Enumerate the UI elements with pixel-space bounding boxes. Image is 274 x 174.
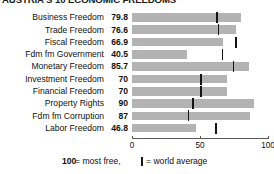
world-average-tick-icon: [141, 157, 143, 167]
world-average-marker: [200, 74, 202, 85]
world-average-marker: [192, 98, 194, 109]
x-axis-tick-label: 50: [195, 141, 204, 150]
chart-row-value: 40.5: [106, 49, 128, 59]
x-axis-tick: [200, 136, 201, 139]
world-average-marker: [218, 24, 220, 35]
chart-plot-area: Business Freedom79.8Trade Freedom76.6Fis…: [0, 12, 274, 137]
chart-row: Investment Freedom70: [0, 74, 274, 86]
chart-row: Financial Freedom70: [0, 86, 274, 98]
chart-bar: [132, 13, 241, 22]
chart-bar: [132, 25, 236, 34]
chart-row-value: 70: [106, 74, 128, 84]
chart-bar: [132, 87, 227, 96]
chart-row: Property Rights90: [0, 98, 274, 110]
chart-row-value: 85.7: [106, 61, 128, 71]
chart-row-value: 90: [106, 98, 128, 108]
world-average-marker: [215, 123, 217, 134]
legend-most-free-text: = most free,: [75, 156, 121, 166]
world-average-marker: [188, 110, 190, 121]
chart-bar: [132, 112, 250, 121]
chart-row-label: Financial Freedom: [0, 86, 104, 96]
chart-row: Business Freedom79.8: [0, 12, 274, 24]
x-axis: 050100: [0, 138, 274, 156]
chart-row-value: 87: [106, 111, 128, 121]
chart-row: Trade Freedom76.6: [0, 24, 274, 36]
world-average-marker: [233, 61, 235, 72]
chart-row: Fiscal Freedom66.9: [0, 37, 274, 49]
economic-freedoms-chart: AUSTRIA'S 10 ECONOMIC FREEDOMS Business …: [0, 0, 274, 174]
chart-title: AUSTRIA'S 10 ECONOMIC FREEDOMS: [2, 0, 272, 6]
world-average-marker: [235, 37, 237, 48]
chart-row: Labor Freedom46.8: [0, 123, 274, 135]
chart-row: Monetary Freedom85.7: [0, 61, 274, 73]
x-axis-tick-label: 100: [261, 141, 274, 150]
x-axis-tick-label: 0: [130, 141, 135, 150]
chart-row-label: Business Freedom: [0, 12, 104, 22]
world-average-marker: [216, 12, 218, 23]
chart-row-label: Investment Freedom: [0, 74, 104, 84]
chart-row-value: 79.8: [106, 12, 128, 22]
world-average-marker: [222, 49, 224, 60]
chart-row-value: 66.9: [106, 37, 128, 47]
chart-bar: [132, 62, 249, 71]
chart-row-label: Trade Freedom: [0, 25, 104, 35]
chart-row-value: 46.8: [106, 123, 128, 133]
chart-row-label: Property Rights: [0, 98, 104, 108]
chart-row-label: Fdm fm Government: [0, 49, 104, 59]
chart-row-value: 76.6: [106, 25, 128, 35]
chart-row-label: Fiscal Freedom: [0, 37, 104, 47]
chart-row-value: 70: [106, 86, 128, 96]
chart-row: Fdm fm Government40.5: [0, 49, 274, 61]
chart-bar: [132, 75, 227, 84]
chart-bar: [132, 124, 196, 133]
chart-bar: [132, 50, 187, 59]
chart-legend: 100 = most free, = world average: [0, 156, 274, 170]
x-axis-tick: [132, 136, 133, 139]
x-axis-tick: [268, 136, 269, 139]
world-average-marker: [200, 86, 202, 97]
chart-row-label: Labor Freedom: [0, 123, 104, 133]
chart-bar: [132, 38, 223, 47]
chart-row: Fdm fm Corruption87: [0, 110, 274, 122]
legend-world-average-text: = world average: [146, 156, 207, 166]
chart-row-label: Fdm fm Corruption: [0, 111, 104, 121]
chart-row-label: Monetary Freedom: [0, 61, 104, 71]
